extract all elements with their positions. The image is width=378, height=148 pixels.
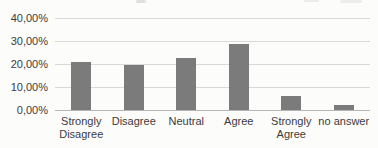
bar-agree — [229, 44, 249, 110]
category-label: no answer — [316, 115, 373, 128]
gridline — [55, 18, 370, 19]
category-label: Strongly Agree — [263, 115, 320, 141]
y-tick-label: 0,00% — [0, 103, 48, 117]
bar-disagree — [124, 65, 144, 110]
scan-artifact — [136, 0, 146, 3]
bar-strongly-disagree — [71, 62, 91, 110]
category-axis-line — [55, 110, 370, 111]
bar-neutral — [176, 58, 196, 110]
bar-no-answer — [334, 105, 354, 110]
bar-strongly-agree — [281, 96, 301, 110]
gridline — [55, 87, 370, 88]
category-label: Agree — [211, 115, 268, 128]
gridline — [55, 64, 370, 65]
scanned-bar-chart: 0,00%10,00%20,00%30,00%40,00% Strongly D… — [0, 0, 378, 148]
scan-artifact — [340, 0, 362, 3]
scan-artifact — [304, 0, 319, 2]
category-label: Neutral — [158, 115, 215, 128]
category-label: Strongly Disagree — [53, 115, 110, 141]
y-tick-label: 10,00% — [0, 80, 48, 94]
category-label: Disagree — [106, 115, 163, 128]
y-tick-label: 40,00% — [0, 11, 48, 25]
y-tick-label: 20,00% — [0, 57, 48, 71]
y-tick-label: 30,00% — [0, 34, 48, 48]
gridline — [55, 41, 370, 42]
